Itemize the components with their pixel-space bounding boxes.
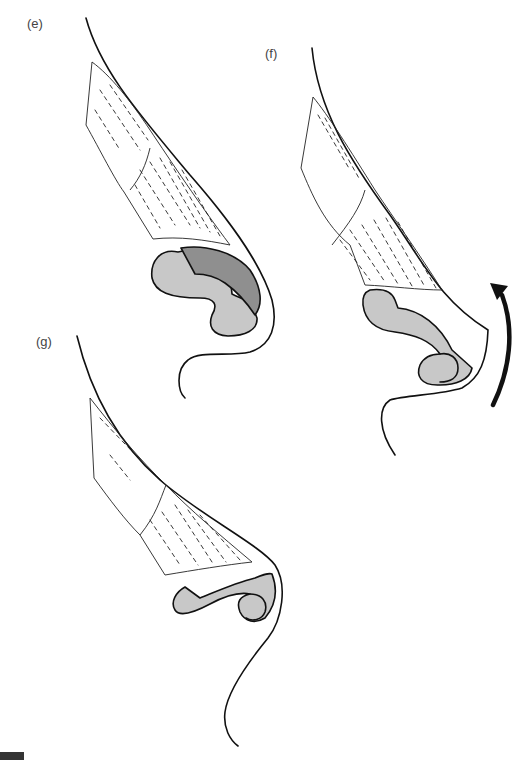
figure-canvas: (e) (f) (g)	[0, 0, 532, 763]
upper-cartilage-e	[86, 62, 230, 245]
caption-fragment	[0, 752, 24, 760]
panel-e-diagram	[86, 18, 274, 398]
curved-arrow-up-icon	[490, 283, 508, 300]
hatching-e	[95, 85, 220, 236]
cartilage-boundary-g	[140, 485, 166, 535]
cartilage-boundary-f	[332, 190, 365, 245]
skin-profile-f	[312, 48, 488, 455]
skin-profile-g	[77, 336, 282, 746]
rotation-arrow	[493, 295, 509, 405]
upper-cartilage-g	[90, 398, 252, 575]
lower-cartilage-g	[173, 574, 275, 622]
skin-profile-e	[86, 18, 274, 398]
panel-f-diagram	[301, 48, 509, 455]
cartilage-boundary-e	[130, 148, 150, 190]
hatching-f	[318, 115, 436, 288]
panel-g-diagram	[77, 336, 282, 746]
hatching-g	[100, 418, 240, 565]
